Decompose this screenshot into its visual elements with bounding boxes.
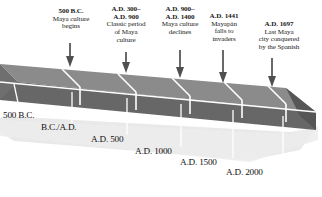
down-arrow-icon-1 <box>66 43 74 67</box>
event-body-4-line-3: invaders <box>199 36 249 44</box>
tick-label-4: A.D. 1000 <box>135 146 172 156</box>
down-arrow-icon-5 <box>268 58 276 87</box>
tick-label-6: A.D. 2000 <box>226 167 263 177</box>
event-body-1-line-2: begins <box>40 23 102 31</box>
down-arrow-icon-3 <box>176 50 184 78</box>
event-label-4: A.D. 1441 Mayapán falls to invaders <box>199 13 249 44</box>
tick-label-2: B.C./A.D. <box>41 122 76 132</box>
event-label-2: A.D. 300– A.D. 900 Classic period of May… <box>95 6 157 44</box>
down-arrow-icon-2 <box>122 52 130 73</box>
timeline-diagram: 500 B.C. Maya culture begins A.D. 300– A… <box>0 0 322 197</box>
event-body-5-line-3: by the Spanish <box>247 44 311 52</box>
tick-label-3: A.D. 500 <box>91 134 123 144</box>
tick-label-1: 500 B.C. <box>3 110 34 120</box>
event-label-5: A.D. 1697 Last Maya city conquered by th… <box>247 21 311 52</box>
event-body-2-line-3: culture <box>95 37 157 45</box>
event-label-1: 500 B.C. Maya culture begins <box>40 8 102 31</box>
down-arrow-icon-4 <box>219 50 227 83</box>
tick-label-5: A.D. 1500 <box>180 157 217 167</box>
